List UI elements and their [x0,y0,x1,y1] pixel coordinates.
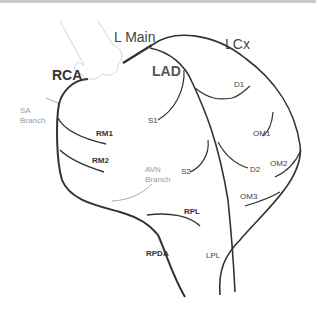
sa-line1: SA [20,106,31,115]
sa-line2: Branch [20,116,45,125]
label-s2: S2 [181,168,191,176]
label-lpl: LPL [206,252,220,260]
label-om2: OM2 [270,160,287,168]
avn-line1: AVN [145,165,161,174]
label-avn-branch: AVN Branch [145,165,170,184]
label-d1: D1 [234,81,244,89]
label-rm1: RM1 [96,130,113,138]
label-om3: OM3 [240,193,257,201]
label-sa-branch: SA Branch [20,106,45,125]
label-rca: RCA [52,68,82,82]
label-lcx: LCx [225,37,250,51]
avn-line2: Branch [145,175,170,184]
label-rm2: RM2 [92,157,109,165]
coronary-tree-drawing [0,0,318,310]
label-lad: LAD [152,64,181,78]
label-rpl: RPL [184,208,200,216]
label-s1: S1 [148,117,158,125]
label-d2: D2 [250,166,260,174]
label-l-main: L Main [114,30,156,44]
label-rpda: RPDA [146,250,169,258]
label-om1: OM1 [253,130,270,138]
